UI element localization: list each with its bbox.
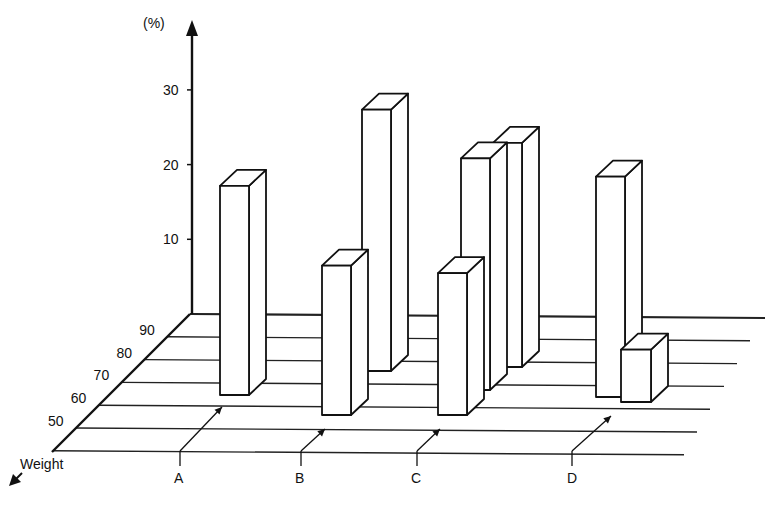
weight-tick-label: 90 bbox=[139, 322, 155, 338]
bar-a-70 bbox=[220, 170, 266, 395]
bar-side-face bbox=[351, 250, 368, 415]
bar-side-face bbox=[490, 142, 507, 390]
y-tick-label: 20 bbox=[163, 157, 179, 173]
bar-front-face bbox=[621, 350, 651, 402]
bar-side-face bbox=[522, 127, 539, 367]
y-axis-arrow-icon bbox=[186, 20, 198, 36]
group-label-d: D bbox=[567, 470, 577, 486]
pointer-line bbox=[572, 416, 611, 451]
group-label-c: C bbox=[411, 470, 421, 486]
bars bbox=[220, 94, 668, 415]
y-tick-label: 10 bbox=[163, 231, 179, 247]
weight-tick-label: 80 bbox=[116, 345, 132, 361]
floor-line bbox=[76, 428, 697, 432]
y-ticks: 102030 bbox=[163, 82, 192, 247]
chart-3d-bar: 102030 5060708090 (%) Weight A B C D bbox=[0, 0, 781, 508]
group-pointer-b bbox=[301, 429, 325, 466]
group-label-b: B bbox=[295, 470, 304, 486]
y-unit-label: (%) bbox=[143, 15, 165, 31]
group-label-a: A bbox=[174, 470, 184, 486]
weight-axis-label: Weight bbox=[20, 456, 63, 472]
bar-b-60 bbox=[322, 250, 368, 415]
group-pointers bbox=[180, 407, 611, 466]
bar-side-face bbox=[467, 257, 484, 415]
y-tick-label: 30 bbox=[163, 82, 179, 98]
bar-side-face bbox=[249, 170, 266, 395]
floor-line bbox=[53, 451, 684, 455]
weight-tick-label: 70 bbox=[94, 367, 110, 383]
weight-ticks: 5060708090 bbox=[48, 322, 155, 429]
weight-tick-label: 50 bbox=[48, 413, 64, 429]
weight-tick-label: 60 bbox=[71, 390, 87, 406]
bar-side-face bbox=[391, 94, 408, 371]
group-pointer-a bbox=[180, 407, 222, 466]
floor-line bbox=[99, 405, 710, 409]
group-pointer-d bbox=[572, 416, 611, 466]
bar-front-face bbox=[438, 273, 467, 415]
bar-front-face bbox=[220, 186, 249, 395]
bar-d-65 bbox=[621, 334, 668, 402]
bar-c-60 bbox=[438, 257, 484, 415]
bar-front-face bbox=[322, 266, 351, 415]
group-pointer-c bbox=[417, 429, 440, 466]
